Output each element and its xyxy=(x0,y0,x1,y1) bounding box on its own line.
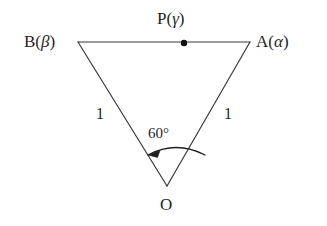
segment-BO xyxy=(78,42,167,186)
vertex-label-b-text: B xyxy=(24,32,35,51)
paren-close: ) xyxy=(283,32,289,51)
greek-gamma: γ xyxy=(172,9,179,28)
side-length-oa: 1 xyxy=(224,106,232,122)
paren-close: ) xyxy=(49,32,55,51)
vertex-label-o: O xyxy=(160,196,172,213)
vertex-label-a-text: A xyxy=(256,32,268,51)
point-label-p: P(γ) xyxy=(157,10,185,27)
geometry-figure: B(β) A(α) P(γ) O 1 1 60° xyxy=(0,0,327,226)
segment-AO xyxy=(167,42,250,186)
greek-alpha: α xyxy=(274,32,283,51)
vertex-label-a: A(α) xyxy=(256,33,289,50)
point-p-marker xyxy=(181,40,187,46)
vertex-label-b: B(β) xyxy=(24,33,55,50)
side-length-ob: 1 xyxy=(96,106,104,122)
paren-close: ) xyxy=(179,9,185,28)
angle-measure-label: 60° xyxy=(148,126,169,141)
